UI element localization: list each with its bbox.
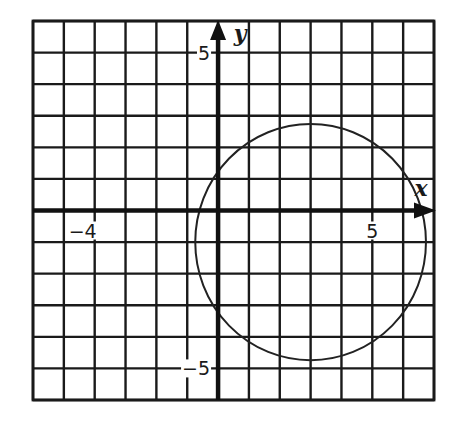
x-tick-label: −4 — [69, 220, 97, 242]
y-axis-arrow-icon — [210, 20, 226, 40]
coordinate-plane: −455−5xy — [0, 0, 455, 435]
x-tick-label: 5 — [366, 220, 378, 242]
x-axis-label: x — [413, 175, 428, 201]
y-tick-label: −5 — [182, 357, 210, 379]
y-tick-label: 5 — [198, 42, 210, 64]
axes — [33, 20, 436, 400]
coordinate-plane-figure: −455−5xy x y — [0, 0, 455, 435]
y-axis-label: y — [233, 20, 249, 46]
